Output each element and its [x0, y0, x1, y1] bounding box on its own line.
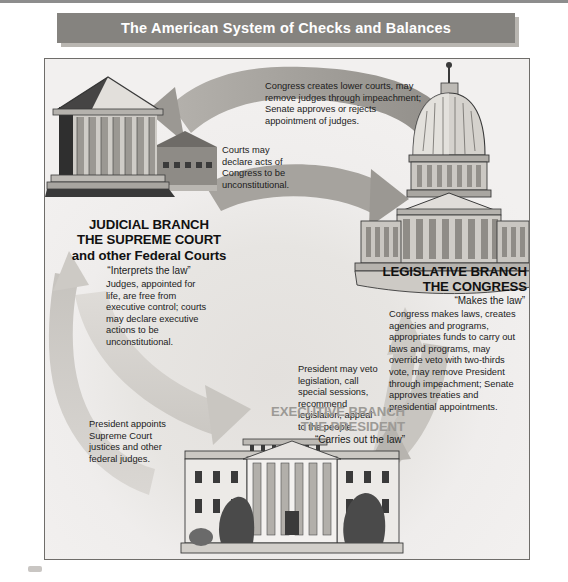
executive-branch-tagline: “Carries out the law”: [171, 434, 405, 445]
legislative-branch-tagline: “Makes the law”: [341, 295, 525, 306]
supreme-court-building-icon: [45, 77, 217, 197]
legislative-branch-body: Congress makes laws, creates agencies an…: [389, 309, 525, 413]
page-title: The American System of Checks and Balanc…: [121, 20, 451, 36]
judicial-branch-body: Judges, appointed for life, are free fro…: [106, 279, 210, 349]
caption-president-to-courts: President appoints Supreme Court justice…: [89, 419, 177, 465]
white-house-icon: [181, 439, 403, 553]
executive-branch-title: EXECUTIVE BRANCH THE PRESIDENT: [171, 404, 405, 435]
legislative-branch-title: LEGISLATIVE BRANCH THE CONGRESS: [341, 264, 527, 295]
title-banner: The American System of Checks and Balanc…: [57, 13, 515, 43]
page-corner-mark: [28, 566, 42, 572]
caption-courts-to-congress: Courts may declare acts of Congress to b…: [222, 145, 302, 191]
caption-congress-to-courts: Congress creates lower courts, may remov…: [265, 81, 425, 127]
top-rule-divider: [0, 0, 568, 3]
checks-and-balances-figure: The American System of Checks and Balanc…: [0, 0, 568, 582]
diagram-panel: Congress creates lower courts, may remov…: [44, 58, 530, 560]
judicial-branch-tagline: “Interprets the law”: [53, 265, 245, 276]
judicial-branch-title: JUDICIAL BRANCH THE SUPREME COURT and ot…: [53, 217, 245, 263]
